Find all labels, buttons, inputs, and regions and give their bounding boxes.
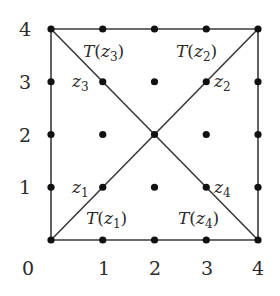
x-axis-labels: 0 1 2 3 4 <box>22 257 264 279</box>
y-label-3: 3 <box>19 71 31 93</box>
lattice-dot-1-0 <box>99 236 106 243</box>
label-T-z2: T(z2) <box>176 41 217 64</box>
label-T-z3: T(z3) <box>83 41 124 64</box>
lattice-dot-4-2 <box>254 131 261 138</box>
lattice-diagram: 0 1 2 3 4 1 2 3 4 z3 z2 z1 z4 T(z3) T(z2… <box>0 0 280 296</box>
lattice-dot-3-4 <box>203 25 210 32</box>
label-T-z4: T(z4) <box>178 208 219 231</box>
label-z4: z4 <box>213 177 231 200</box>
x-label-2: 2 <box>149 257 161 279</box>
lattice-dot-1-3 <box>99 78 106 85</box>
lattice-dot-1-1 <box>99 184 106 191</box>
x-label-4: 4 <box>252 257 264 279</box>
lattice-dot-2-2 <box>151 131 158 138</box>
lattice-dot-0-1 <box>47 184 54 191</box>
label-z2: z2 <box>213 71 231 94</box>
lattice-dot-1-2 <box>99 131 106 138</box>
y-axis-labels: 1 2 3 4 <box>19 18 31 198</box>
label-z3: z3 <box>71 71 89 94</box>
y-label-1: 1 <box>19 176 31 198</box>
lattice-dot-0-3 <box>47 78 54 85</box>
lattice-dot-2-0 <box>151 236 158 243</box>
x-label-3: 3 <box>201 257 213 279</box>
lattice-dot-0-4 <box>47 25 54 32</box>
y-label-2: 2 <box>19 124 31 146</box>
lattice-dot-3-1 <box>203 184 210 191</box>
label-T-z1: T(z1) <box>86 208 127 231</box>
lattice-dot-3-0 <box>203 236 210 243</box>
lattice-dot-0-2 <box>47 131 54 138</box>
lattice-dot-0-0 <box>47 236 54 243</box>
lattice-dot-4-3 <box>254 78 261 85</box>
x-label-0: 0 <box>22 257 34 279</box>
lattice-dot-3-3 <box>203 78 210 85</box>
x-label-1: 1 <box>98 257 110 279</box>
lattice-dot-1-4 <box>99 25 106 32</box>
lattice-dot-3-2 <box>203 131 210 138</box>
label-z1: z1 <box>71 177 89 200</box>
lattice-dot-2-1 <box>151 184 158 191</box>
lattice-dot-2-3 <box>151 78 158 85</box>
lattice-dot-4-1 <box>254 184 261 191</box>
lattice-dot-4-0 <box>254 236 261 243</box>
y-label-4: 4 <box>19 18 31 40</box>
lattice-dot-4-4 <box>254 25 261 32</box>
lattice-dot-2-4 <box>151 25 158 32</box>
